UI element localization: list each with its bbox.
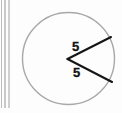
circle-diagram-svg [0,0,122,113]
lower-radius-label: 5 [73,66,80,79]
geometry-figure: 5 5 [0,0,122,113]
upper-radius-label: 5 [72,40,79,53]
